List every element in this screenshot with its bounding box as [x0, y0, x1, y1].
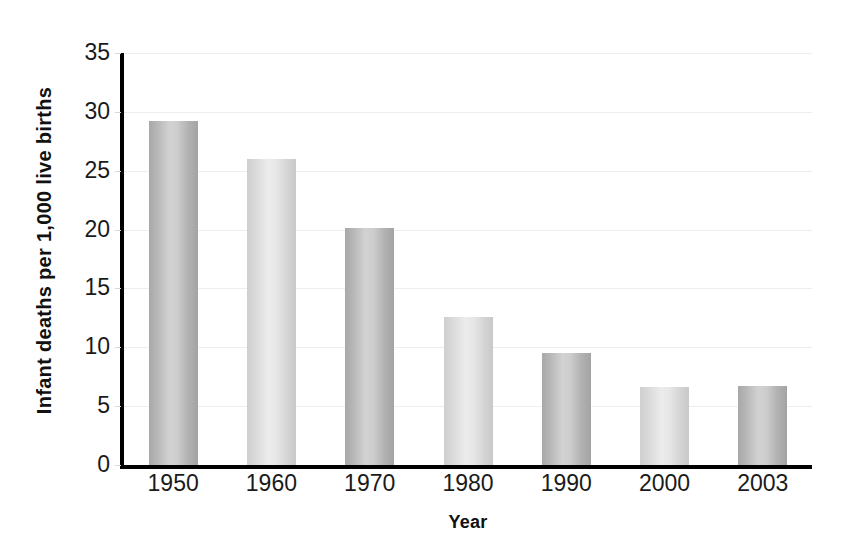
- bar-1960: [247, 159, 296, 465]
- x-axis-tick-label: 1950: [124, 472, 222, 495]
- x-axis-line: [120, 465, 812, 469]
- y-axis-tick: [115, 465, 121, 466]
- bar-1970: [345, 228, 394, 465]
- gridline: [124, 288, 812, 289]
- gridline: [124, 112, 812, 113]
- y-axis-tick-label: 0: [64, 453, 110, 476]
- bar-2003: [738, 386, 787, 465]
- y-axis-tick: [115, 53, 121, 54]
- x-axis-title: Year: [124, 512, 812, 533]
- y-axis-tick-label: 10: [64, 335, 110, 358]
- plot-area: [124, 53, 812, 465]
- y-axis-tick: [115, 230, 121, 231]
- y-axis-tick-label: 5: [64, 394, 110, 417]
- x-axis-tick-label: 1990: [517, 472, 615, 495]
- x-axis-tick-labels: 1950196019701980199020002003: [124, 472, 812, 506]
- bar-1990: [542, 353, 591, 465]
- y-axis-tick: [115, 347, 121, 348]
- y-axis-title: Infant deaths per 1,000 live births: [34, 86, 57, 413]
- y-axis-tick: [115, 112, 121, 113]
- bar-1950: [149, 121, 198, 465]
- bar-2000: [640, 387, 689, 465]
- y-axis-tick: [115, 288, 121, 289]
- y-axis-tick: [115, 171, 121, 172]
- y-axis-line: [120, 53, 124, 465]
- y-axis-tick-labels: 05101520253035: [58, 53, 110, 465]
- y-axis-tick-label: 30: [64, 100, 110, 123]
- bar-1980: [444, 317, 493, 465]
- gridline: [124, 53, 812, 54]
- y-axis-tick-label: 35: [64, 41, 110, 64]
- x-axis-tick-label: 1960: [222, 472, 320, 495]
- chart-page: Infant deaths per 1,000 live births 0510…: [0, 0, 857, 560]
- gridline: [124, 230, 812, 231]
- gridline: [124, 171, 812, 172]
- x-axis-tick-label: 2003: [714, 472, 812, 495]
- y-axis-tick: [115, 406, 121, 407]
- y-axis-tick-label: 25: [64, 159, 110, 182]
- y-axis-tick-label: 20: [64, 218, 110, 241]
- x-axis-tick-label: 1980: [419, 472, 517, 495]
- x-axis-tick-label: 2000: [615, 472, 713, 495]
- x-axis-tick-label: 1970: [321, 472, 419, 495]
- y-axis-tick-label: 15: [64, 276, 110, 299]
